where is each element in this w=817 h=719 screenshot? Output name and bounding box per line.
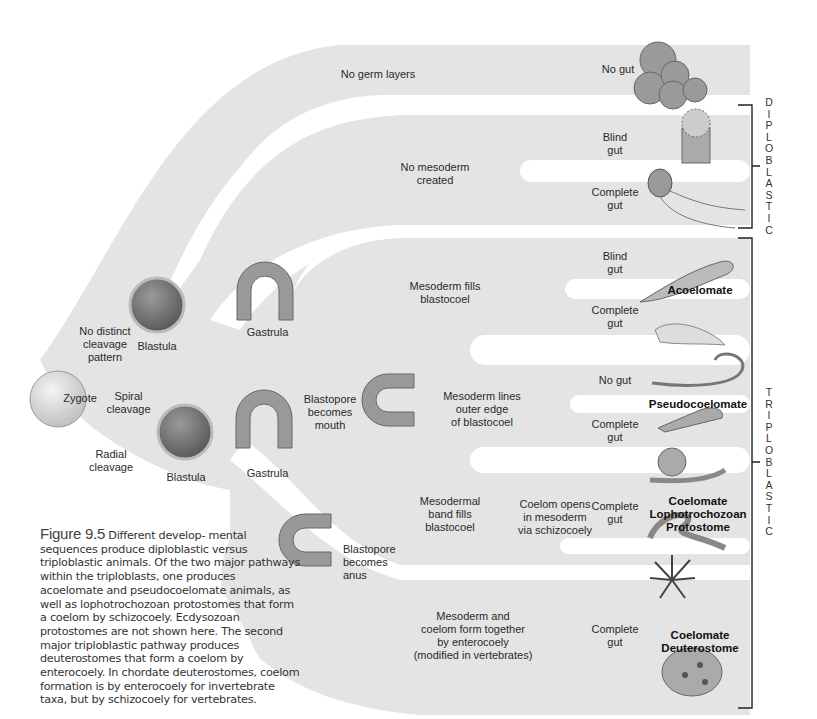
blastula-icon	[130, 278, 184, 332]
gut-label-nematode: No gut	[587, 374, 643, 387]
gut-label-anemone: Blind gut	[590, 131, 640, 157]
triploblastic-label: TRIPLOBLASTIC	[762, 387, 776, 538]
radial-cleavage-label: Radial cleavage	[86, 448, 136, 474]
gut-label-nemertean: Complete gut	[587, 304, 643, 330]
group-deuterostome: Coelomate Deuterostome	[650, 629, 750, 655]
blastopore-mouth-label: Blastopore becomes mouth	[300, 393, 360, 432]
blastopore-anus-label: Blastopore becomes anus	[343, 543, 413, 582]
spiral-cleavage-label: Spiral cleavage	[106, 390, 151, 416]
gut-label-coelomate-protostome: Complete gut	[587, 500, 643, 526]
sea-anemone-icon	[682, 109, 710, 163]
group-acoelomate: Acoelomate	[650, 284, 750, 297]
mesodermal-band-label: Mesodermal band fills blastocoel	[410, 495, 490, 534]
group-lophotrochozoan-protostome: Coelomate Lophotrochozoan Protostome	[643, 495, 753, 534]
figure-caption: Figure 9.5 Different develop- mental seq…	[40, 527, 300, 707]
caption-body: mental sequences produce diploblastic ve…	[40, 529, 300, 706]
no-germ-layers-label: No germ layers	[328, 68, 428, 81]
blastula-label-top: Blastula	[132, 340, 182, 353]
gut-label-rotifer: Complete gut	[587, 418, 643, 444]
mesoderm-fills-label: Mesoderm fills blastocoel	[400, 280, 490, 306]
gastrula-label-top: Gastrula	[240, 326, 295, 339]
diploblastic-label: DIPLOBLASTIC	[762, 97, 776, 236]
group-pseudocoelomate: Pseudocoelomate	[643, 398, 753, 411]
gastrula-label-bottom: Gastrula	[240, 467, 295, 480]
gut-label-ctenophore: Complete gut	[587, 186, 643, 212]
mesoderm-lines-label: Mesoderm lines outer edge of blastocoel	[432, 390, 532, 429]
frog-icon	[662, 648, 722, 696]
blastula-icon	[158, 405, 212, 459]
gut-label-flatworm: Blind gut	[590, 250, 640, 276]
gut-label-deuterostome: Complete gut	[587, 623, 643, 649]
caption-first-line: Different develop-	[108, 529, 205, 542]
no-mesoderm-label: No mesoderm created	[390, 161, 480, 187]
gut-label-sponge: No gut	[593, 63, 643, 76]
enterocoely-label: Mesoderm and coelom form together by ent…	[398, 610, 548, 662]
blastula-label-bottom: Blastula	[161, 471, 211, 484]
figure-number: Figure 9.5	[40, 525, 105, 542]
no-distinct-cleavage-label: No distinct cleavage pattern	[70, 325, 140, 364]
zygote-label: Zygote	[60, 392, 100, 405]
